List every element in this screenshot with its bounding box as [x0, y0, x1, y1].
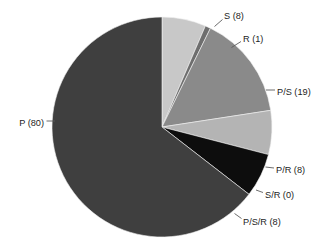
- slice-label-p-s-r: P/S/R (8): [243, 217, 281, 227]
- slice-label-p-s: P/S (19): [277, 87, 311, 97]
- pie-chart-figure: S (8)R (1)P/S (19)S/R (0)P/R (8)P/S/R (8…: [0, 0, 325, 249]
- pie-chart-canvas: S (8)R (1)P/S (19)S/R (0)P/R (8)P/S/R (8…: [0, 0, 325, 249]
- slice-label-s: S (8): [224, 11, 244, 21]
- slice-label-p-r: P/R (8): [276, 165, 305, 175]
- slice-label-p: P (80): [19, 118, 44, 128]
- slice-label-s-r: S/R (0): [265, 190, 294, 200]
- pie-slices-group: [52, 17, 272, 237]
- slice-label-r: R (1): [243, 34, 263, 44]
